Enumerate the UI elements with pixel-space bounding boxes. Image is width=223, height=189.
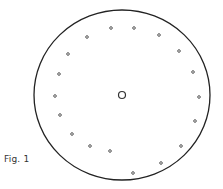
- disc-diagram: [0, 0, 223, 189]
- hole-dot: [132, 172, 135, 175]
- hole-dot: [54, 95, 57, 98]
- hole-dot: [192, 71, 195, 74]
- hole-dot: [110, 27, 113, 30]
- hole-dot: [59, 114, 62, 117]
- hole-dot: [67, 53, 70, 56]
- hole-dot: [180, 145, 183, 148]
- hole-dot: [58, 73, 61, 76]
- outer-circle: [34, 10, 210, 180]
- hole-dot: [133, 27, 136, 30]
- hole-dot: [158, 34, 161, 37]
- hole-dot: [198, 96, 201, 99]
- hole-dot: [194, 120, 197, 123]
- figure-caption: Fig. 1: [4, 154, 29, 164]
- hole-dot: [71, 133, 74, 136]
- hole-dot: [89, 145, 92, 148]
- hole-dot: [109, 150, 112, 153]
- hole-dot: [178, 50, 181, 53]
- center-hole: [119, 92, 126, 99]
- hole-dots: [54, 27, 201, 175]
- hole-dot: [86, 36, 89, 39]
- hole-dot: [160, 162, 163, 165]
